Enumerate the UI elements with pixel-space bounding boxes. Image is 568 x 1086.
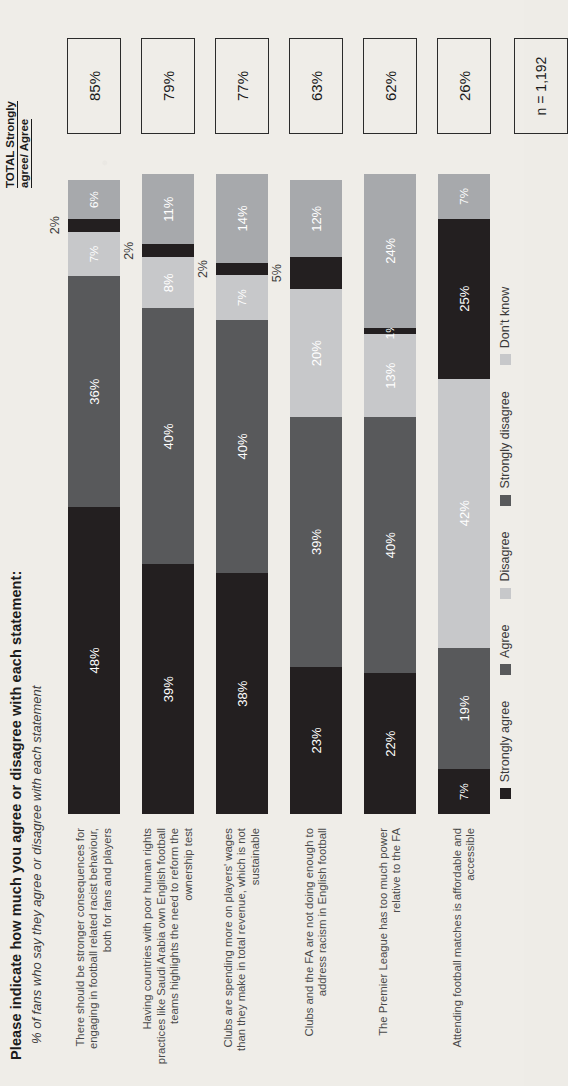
segment-value-label: 7% (458, 783, 470, 800)
page-title: Please indicate how much you agree or di… (8, 571, 24, 1060)
legend-swatch-icon (500, 354, 511, 365)
category-label: Attending football matches is affordable… (432, 822, 496, 1068)
page-subtitle: % of fans who say they agree or disagree… (29, 686, 44, 1044)
legend-swatch-icon (500, 664, 511, 675)
category-label: Clubs are spending more on players' wage… (210, 822, 274, 1068)
stacked-bar: 39%40%8%2%11% (142, 174, 194, 814)
bar-segment-strongly-agree[interactable]: 38% (216, 573, 268, 814)
segment-value-label: 23% (309, 727, 324, 753)
segment-value-label: 42% (457, 500, 472, 526)
bar-segment-disagree[interactable]: 8% (142, 257, 194, 308)
category-label: The Premier League has too much power re… (358, 822, 422, 1068)
bar-segment-agree[interactable]: 40% (142, 308, 194, 564)
segment-value-label: 14% (235, 205, 250, 231)
bar-segment-agree[interactable]: 39% (290, 417, 342, 667)
segment-value-label: 19% (457, 695, 472, 721)
segment-value-label: 38% (235, 681, 250, 707)
bar-segment-strongly-agree[interactable]: 7% (438, 769, 490, 814)
total-agree-box: 63% (289, 38, 343, 134)
segment-value-label: 25% (457, 286, 472, 312)
bar-segment-strongly-disagree[interactable]: 25% (438, 219, 490, 379)
stacked-bar: 7%19%42%25%7% (438, 174, 490, 814)
segment-value-label: 12% (309, 206, 324, 232)
segment-value-label: 40% (161, 423, 176, 449)
bar-segment-agree[interactable]: 40% (364, 417, 416, 673)
segment-value-label: 39% (161, 676, 176, 702)
segment-value-label: 48% (87, 647, 102, 673)
legend-label: Strongly agree (498, 701, 512, 782)
bar-segment-disagree[interactable]: 20% (290, 289, 342, 417)
total-agree-box: 79% (141, 38, 195, 134)
category-label: Having countries with poor human rights … (136, 822, 200, 1068)
legend-label: Disagree (498, 532, 512, 582)
segment-value-label: 8% (161, 273, 176, 292)
bar-segment-strongly-agree[interactable]: 39% (142, 564, 194, 814)
bar-segment-strongly-disagree[interactable]: 2% (216, 263, 268, 276)
total-agree-box: 85% (67, 38, 121, 134)
chart-legend: Strongly agreeAgreeDisagreeStrongly disa… (498, 0, 512, 1086)
category-label: There should be stronger consequences fo… (62, 822, 126, 1068)
segment-value-label: 7% (236, 289, 248, 306)
bar-segment-don-t-know[interactable]: 6% (68, 180, 120, 218)
bar-row: Clubs are spending more on players' wage… (210, 0, 274, 1086)
segment-value-label: 24% (383, 238, 398, 264)
bar-row: There should be stronger consequences fo… (62, 0, 126, 1086)
total-column-header: TOTAL Strongly agree/ Agree (4, 38, 32, 188)
bar-segment-disagree[interactable]: 13% (364, 334, 416, 417)
bar-segment-don-t-know[interactable]: 12% (290, 180, 342, 257)
bar-row: The Premier League has too much power re… (358, 0, 422, 1086)
bar-segment-strongly-agree[interactable]: 22% (364, 673, 416, 814)
bar-segment-agree[interactable]: 40% (216, 320, 268, 573)
bar-segment-strongly-disagree[interactable]: 2% (68, 219, 120, 232)
bar-segment-disagree[interactable]: 7% (68, 232, 120, 277)
segment-value-label: 39% (309, 529, 324, 555)
sample-size-box: n = 1,192 (514, 38, 568, 134)
bar-segment-strongly-disagree[interactable]: 5% (290, 257, 342, 289)
total-column-header-line1: TOTAL Strongly (4, 101, 18, 188)
segment-value-callout: 2% (196, 260, 210, 278)
legend-swatch-icon (500, 495, 511, 506)
bar-segment-strongly-disagree[interactable]: 1% (364, 328, 416, 334)
bar-segment-don-t-know[interactable]: 14% (216, 174, 268, 263)
segment-value-label: 20% (309, 340, 324, 366)
bar-segment-agree[interactable]: 19% (438, 648, 490, 770)
segment-value-label: 40% (383, 532, 398, 558)
total-agree-box: 26% (437, 38, 491, 134)
bar-segment-disagree[interactable]: 42% (438, 379, 490, 648)
bar-segment-strongly-agree[interactable]: 23% (290, 667, 342, 814)
stacked-bar: 22%40%13%1%24% (364, 174, 416, 814)
bar-row: Having countries with poor human rights … (136, 0, 200, 1086)
bar-segment-strongly-agree[interactable]: 48% (68, 507, 120, 814)
bar-segment-don-t-know[interactable]: 24% (364, 174, 416, 328)
bar-segment-don-t-know[interactable]: 7% (438, 174, 490, 219)
stacked-bar: 48%36%7%2%6% (68, 174, 120, 814)
category-label: Clubs and the FA are not doing enough to… (284, 822, 348, 1068)
bar-row: Attending football matches is affordable… (432, 0, 496, 1086)
total-agree-box: 77% (215, 38, 269, 134)
legend-item[interactable]: Strongly disagree (498, 391, 512, 505)
segment-value-callout: 2% (48, 216, 62, 234)
segment-value-label: 13% (383, 363, 398, 389)
total-agree-box: 62% (363, 38, 417, 134)
bar-row: Clubs and the FA are not doing enough to… (284, 0, 348, 1086)
legend-label: Agree (498, 625, 512, 658)
bar-rows: There should be stronger consequences fo… (62, 0, 506, 1086)
legend-item[interactable]: Don't know (498, 287, 512, 365)
legend-label: Strongly disagree (498, 391, 512, 488)
total-column-header-line2: agree/ Agree (18, 119, 32, 188)
legend-item[interactable]: Agree (498, 625, 512, 675)
legend-item[interactable]: Strongly agree (498, 701, 512, 799)
segment-value-label: 7% (88, 246, 100, 263)
bar-segment-disagree[interactable]: 7% (216, 275, 268, 319)
segment-value-label: 7% (458, 188, 470, 205)
bar-segment-don-t-know[interactable]: 11% (142, 174, 194, 244)
bar-segment-agree[interactable]: 36% (68, 276, 120, 506)
legend-item[interactable]: Disagree (498, 532, 512, 599)
bar-segment-strongly-disagree[interactable]: 2% (142, 244, 194, 257)
segment-value-callout: 2% (122, 242, 136, 260)
stacked-bar: 23%39%20%5%12% (290, 174, 342, 814)
segment-value-label: 36% (87, 379, 102, 405)
stacked-bar: 38%40%7%2%14% (216, 174, 268, 814)
